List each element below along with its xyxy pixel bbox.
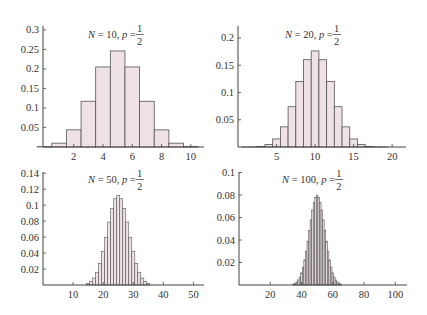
bar: [135, 263, 138, 285]
bar: [141, 278, 144, 285]
x-tick-label: 20: [265, 289, 276, 300]
bar: [296, 82, 304, 147]
bar: [81, 101, 96, 147]
fraction-one-half: 1 2: [136, 168, 144, 192]
y-tick-label: 0.05: [21, 122, 39, 133]
fraction-one-half: 1 2: [136, 23, 144, 47]
bar: [125, 67, 140, 147]
svg-text:2: 2: [137, 181, 142, 192]
svg-text:2: 2: [334, 36, 339, 47]
bar: [304, 60, 312, 147]
svg-text:1: 1: [137, 23, 142, 34]
bar: [342, 127, 350, 147]
x-tick-label: 100: [387, 289, 403, 300]
x-tick-label: 5: [274, 151, 279, 162]
y-tick-label: 0.04: [217, 235, 236, 246]
y-tick-label: 0.02: [217, 257, 235, 268]
panel-n50: 10203040500.020.040.060.080.10.120.14 N …: [21, 168, 204, 300]
y-tick-label: 0.08: [217, 190, 235, 201]
histogram-bars: [37, 51, 198, 147]
x-tick-label: 40: [296, 289, 307, 300]
x-tick-label: 50: [188, 289, 199, 300]
y-tick-label: 0.1: [26, 102, 39, 113]
y-tick-label: 0.2: [221, 32, 234, 43]
x-tick-label: 4: [100, 151, 106, 162]
y-tick-label: 0.2: [26, 63, 39, 74]
svg-text:1: 1: [137, 168, 142, 179]
bar: [129, 237, 132, 285]
y-tick-label: 0.06: [21, 232, 39, 243]
panel-n10: 2468100.050.10.150.20.250.3 N = 10, p = …: [21, 23, 204, 162]
bar: [334, 107, 342, 147]
x-tick-label: 6: [130, 151, 135, 162]
y-tick-label: 0.14: [21, 168, 40, 179]
histogram-bars: [242, 51, 388, 147]
x-tick-label: 10: [310, 151, 321, 162]
histogram-bars: [87, 195, 150, 285]
bar: [90, 281, 93, 285]
y-tick-label: 0.08: [21, 216, 39, 227]
panel-title: N = 50, p = 1 2: [87, 168, 144, 192]
bar: [327, 82, 335, 147]
x-tick-label: 8: [159, 151, 164, 162]
title-text: N = 10, p =: [87, 29, 136, 40]
y-tick-label: 0.1: [221, 87, 234, 98]
fraction-one-half: 1 2: [335, 168, 343, 192]
bar: [110, 51, 125, 147]
x-tick-label: 10: [68, 289, 79, 300]
fraction-one-half: 1 2: [333, 23, 341, 47]
histogram-bars: [293, 196, 341, 286]
x-tick-label: 40: [158, 289, 169, 300]
x-tick-label: 15: [348, 151, 359, 162]
bar: [132, 252, 135, 285]
title-text: N = 100, p =: [281, 174, 335, 185]
y-tick-label: 0.02: [21, 264, 39, 275]
bar: [138, 272, 141, 285]
y-tick-label: 0.12: [21, 184, 39, 195]
x-tick-label: 60: [328, 289, 339, 300]
y-tick-label: 0.25: [21, 44, 39, 55]
svg-text:2: 2: [336, 181, 341, 192]
panel-n20: 51015200.050.10.150.2 N = 20, p = 1 2: [216, 23, 406, 162]
panel-n100: 204060801000.020.040.060.080.1 N = 100, …: [217, 167, 407, 300]
binomial-distribution-figure: 2468100.050.10.150.20.250.3 N = 10, p = …: [0, 0, 427, 315]
bar: [102, 252, 105, 285]
bar: [311, 51, 319, 147]
panel-title: N = 10, p = 1 2: [87, 23, 144, 47]
svg-text:1: 1: [336, 168, 341, 179]
bar: [126, 222, 129, 285]
y-tick-label: 0.06: [217, 212, 235, 223]
y-tick-label: 0.15: [216, 60, 234, 71]
x-tick-label: 30: [128, 289, 139, 300]
bar: [123, 208, 126, 285]
bar: [169, 143, 184, 147]
y-tick-label: 0.3: [26, 24, 39, 35]
bar: [93, 278, 96, 285]
bar: [117, 195, 120, 285]
bar: [120, 199, 123, 285]
panel-title: N = 20, p = 1 2: [284, 23, 341, 47]
x-tick-label: 20: [98, 289, 109, 300]
x-tick-label: 80: [359, 289, 370, 300]
bar: [99, 263, 102, 285]
x-tick-label: 20: [387, 151, 398, 162]
bar: [96, 272, 99, 285]
bar: [114, 199, 117, 285]
bar: [108, 222, 111, 285]
svg-text:2: 2: [137, 36, 142, 47]
bar: [319, 60, 327, 147]
svg-text:1: 1: [334, 23, 339, 34]
bar: [111, 208, 114, 285]
bar: [144, 281, 147, 285]
bar: [280, 127, 288, 147]
y-tick-label: 0.1: [26, 200, 39, 211]
bar: [288, 107, 296, 147]
bar: [105, 237, 108, 285]
x-tick-label: 2: [71, 151, 76, 162]
y-tick-label: 0.04: [21, 248, 40, 259]
title-text: N = 50, p =: [87, 174, 136, 185]
y-tick-label: 0.15: [21, 83, 39, 94]
bar: [52, 143, 67, 147]
panel-title: N = 100, p = 1 2: [281, 168, 343, 192]
bar: [96, 67, 111, 147]
